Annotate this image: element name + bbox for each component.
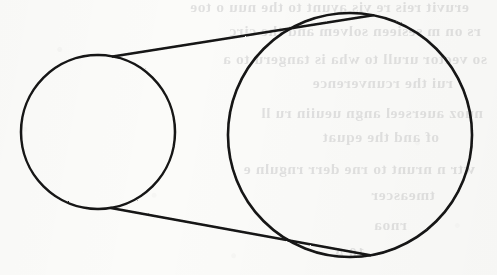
lower-tangent-line <box>111 208 371 255</box>
upper-tangent-line <box>113 15 374 56</box>
scanned-page: eruvit reis re vis ayunt to the nuu o to… <box>0 0 497 275</box>
tangent-circles-diagram <box>0 0 497 275</box>
small-circle <box>21 55 175 209</box>
large-circle <box>228 13 472 257</box>
